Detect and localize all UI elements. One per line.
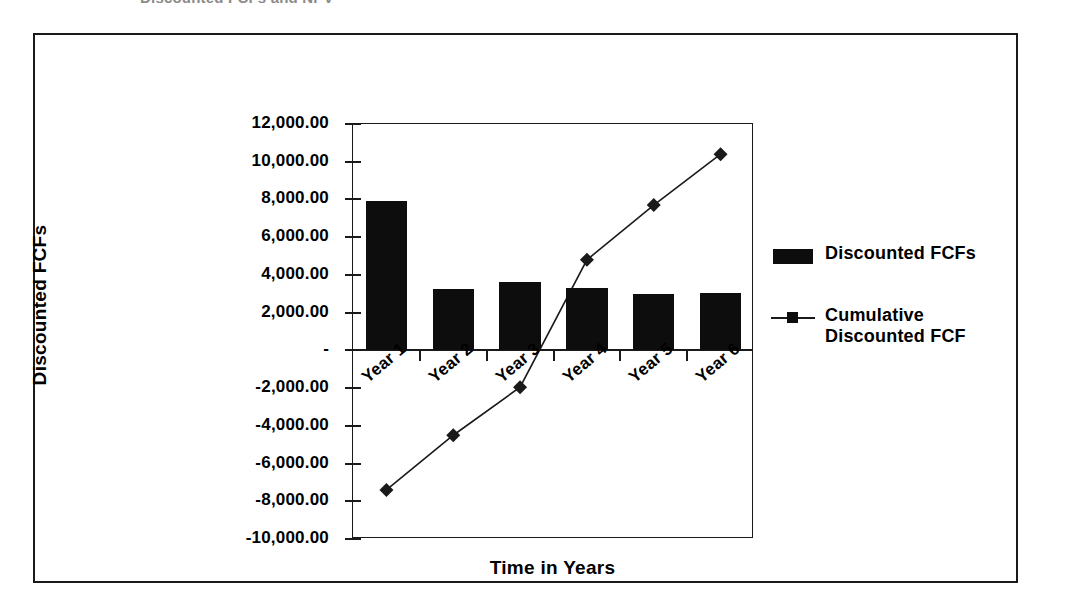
legend-entry-discounted-fcfs: Discounted FCFs — [771, 243, 1021, 267]
chart-frame: Discounted FCFs 12,000.0010,000.008,000.… — [33, 33, 1018, 583]
y-axis-tick-label: 4,000.00 — [261, 264, 329, 284]
bar-swatch-icon — [771, 245, 815, 267]
data-point-marker — [379, 483, 393, 497]
data-point-marker — [647, 198, 661, 212]
y-axis-title: Discounted FCFs — [29, 175, 51, 435]
y-axis-tick-label: 6,000.00 — [261, 226, 329, 246]
y-axis-tick-label: 12,000.00 — [252, 113, 329, 133]
bar — [499, 282, 540, 351]
y-axis-tick-label: 10,000.00 — [252, 151, 329, 171]
bar — [433, 289, 474, 350]
y-axis-tick-mark — [345, 161, 361, 163]
x-axis-title: Time in Years — [352, 557, 753, 579]
y-axis-tick-mark — [345, 123, 361, 125]
x-axis-category-labels: Year 1Year 2Year 3Year 4Year 5Year 6 — [352, 348, 753, 478]
legend-label-cumulative-discounted-fcf: Cumulative Discounted FCF — [825, 305, 1021, 346]
chart-legend: Discounted FCFs Cumulative Discounted FC… — [771, 243, 1021, 384]
y-axis-tick-label: -8,000.00 — [255, 490, 329, 510]
y-axis-tick-mark — [345, 500, 361, 502]
data-point-marker — [580, 253, 594, 267]
data-point-marker — [714, 147, 728, 161]
y-axis-tick-label: 8,000.00 — [261, 188, 329, 208]
y-axis-tick-label: -2,000.00 — [255, 377, 329, 397]
bar — [566, 288, 607, 350]
y-axis-tick-label: 2,000.00 — [261, 302, 329, 322]
y-axis-tick-mark — [345, 236, 361, 238]
y-axis-tick-mark — [345, 538, 361, 540]
clipped-chart-title: Discounted FCFs and NPV — [140, 0, 334, 5]
y-axis-tick-label: -4,000.00 — [255, 415, 329, 435]
y-axis-tick-label: -6,000.00 — [255, 453, 329, 473]
y-axis-tick-mark — [345, 274, 361, 276]
line-marker-icon — [771, 307, 815, 329]
legend-label-discounted-fcfs: Discounted FCFs — [825, 243, 976, 264]
y-axis-tick-label: - — [323, 339, 329, 359]
legend-entry-cumulative-discounted-fcf: Cumulative Discounted FCF — [771, 305, 1021, 346]
bar — [633, 294, 674, 351]
y-axis-tick-mark — [345, 312, 361, 314]
y-axis-tick-label: -10,000.00 — [246, 528, 329, 548]
bar — [366, 201, 407, 350]
y-axis-tick-labels: 12,000.0010,000.008,000.006,000.004,000.… — [185, 123, 337, 538]
bar — [700, 293, 741, 351]
y-axis-tick-mark — [345, 198, 361, 200]
